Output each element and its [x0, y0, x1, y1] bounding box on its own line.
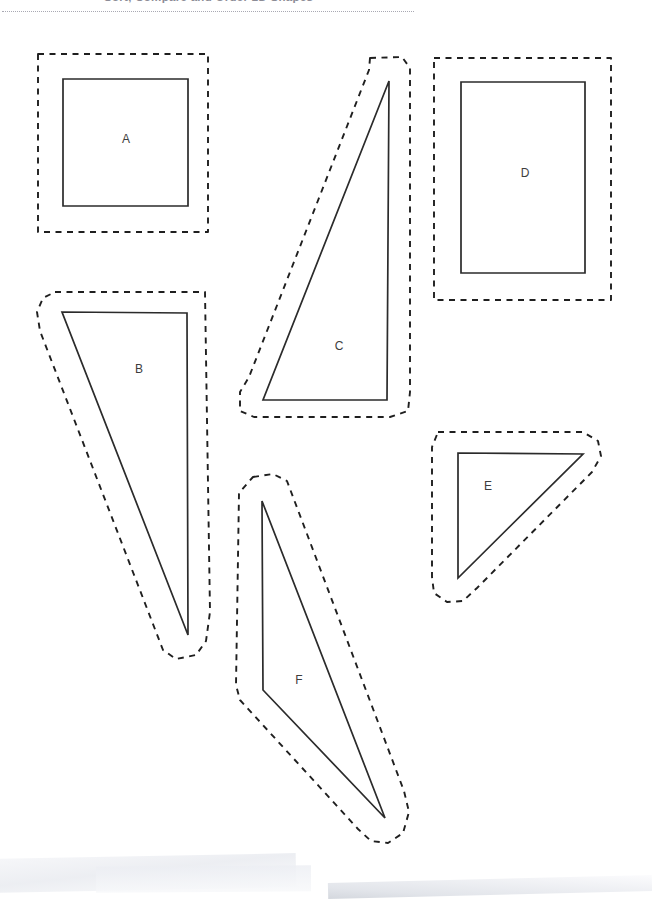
shape-label-b: B: [135, 362, 143, 376]
shape-group-e: E: [432, 432, 601, 602]
shape-label-a: A: [122, 132, 130, 146]
shape-group-a: A: [38, 54, 208, 232]
shape-outline-f: [262, 501, 385, 818]
shape-outline-c: [263, 81, 389, 400]
shape-group-c: C: [240, 57, 410, 417]
shape-group-f: F: [236, 474, 409, 843]
shape-label-f: F: [295, 673, 302, 687]
shape-group-b: B: [37, 292, 210, 659]
shape-label-d: D: [521, 166, 530, 180]
shape-outline-b: [62, 312, 188, 635]
shape-group-d: D: [434, 58, 611, 300]
scan-edge-artifact-left-inner: [96, 865, 311, 893]
shape-outline-e: [458, 453, 583, 578]
shape-label-c: C: [335, 339, 344, 353]
shape-label-e: E: [484, 479, 492, 493]
